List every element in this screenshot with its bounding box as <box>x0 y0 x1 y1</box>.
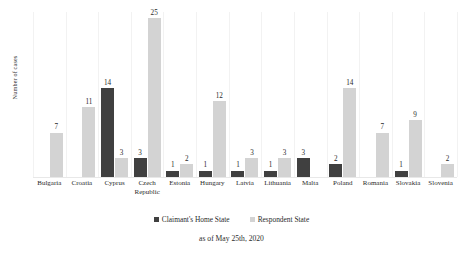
bar-group: 19 <box>392 12 425 177</box>
bar-slot: 3 <box>297 12 310 177</box>
bar-slot <box>36 12 49 177</box>
legend-label: Claimant's Home State <box>162 215 230 224</box>
bar-value-label: 3 <box>138 150 142 157</box>
bar-value-label: 1 <box>204 162 208 169</box>
bar-group: 11 <box>66 12 99 177</box>
bar-slot <box>68 12 81 177</box>
x-tick-label: Latvia <box>229 179 262 197</box>
x-tick-label: Cyprus <box>98 179 131 197</box>
x-tick-label: Malta <box>294 179 327 197</box>
x-tick-label: Romania <box>359 179 392 197</box>
bar-respondent: 12 <box>213 101 226 177</box>
bar-claimant: 2 <box>329 164 342 177</box>
bar-respondent: 3 <box>115 158 128 177</box>
bar-slot: 1 <box>231 12 244 177</box>
bar-value-label: 11 <box>85 99 92 106</box>
bar-slot <box>427 12 440 177</box>
x-tick-label: Slovenia <box>424 179 457 197</box>
bar-value-label: 25 <box>151 10 158 17</box>
bar-respondent: 25 <box>148 18 161 177</box>
bar-slot: 3 <box>245 12 258 177</box>
gridline <box>457 12 458 177</box>
plot-area: 71114332512112131332147192 <box>33 12 457 177</box>
bar-value-label: 1 <box>236 162 240 169</box>
legend-label: Respondent State <box>258 215 310 224</box>
bar-value-label: 9 <box>413 112 417 119</box>
bar-slot: 3 <box>278 12 291 177</box>
x-tick-label: Estonia <box>163 179 196 197</box>
bar-slot: 1 <box>199 12 212 177</box>
legend-item[interactable]: Respondent State <box>250 215 310 224</box>
x-axis-line <box>33 177 457 178</box>
bar-slot: 7 <box>50 12 63 177</box>
bar-value-label: 1 <box>399 162 403 169</box>
bar-value-label: 1 <box>171 162 175 169</box>
bar-claimant: 3 <box>134 158 147 177</box>
bar-slot: 9 <box>409 12 422 177</box>
bar-slot: 14 <box>101 12 114 177</box>
x-tick-label: Slovakia <box>392 179 425 197</box>
bar-respondent: 9 <box>409 120 422 177</box>
bar-value-label: 2 <box>334 156 338 163</box>
bar-claimant: 14 <box>101 88 114 177</box>
legend-item[interactable]: Claimant's Home State <box>154 215 230 224</box>
bar-value-label: 2 <box>185 156 189 163</box>
bar-slot: 14 <box>343 12 356 177</box>
bar-slot: 2 <box>180 12 193 177</box>
bar-slot <box>362 12 375 177</box>
bar-value-label: 7 <box>55 124 59 131</box>
bar-group: 13 <box>229 12 262 177</box>
legend-swatch-claimant <box>154 217 159 222</box>
x-tick-label: Hungary <box>196 179 229 197</box>
bar-claimant: 3 <box>297 158 310 177</box>
bar-group: 112 <box>196 12 229 177</box>
bar-group: 3 <box>294 12 327 177</box>
bar-value-label: 3 <box>120 150 124 157</box>
bar-slot: 1 <box>166 12 179 177</box>
bar-respondent: 11 <box>82 107 95 177</box>
bar-chart-figure: Number of cases 711143325121121313321471… <box>0 0 463 260</box>
x-tick-label: Croatia <box>66 179 99 197</box>
bar-group: 325 <box>131 12 164 177</box>
bar-value-label: 3 <box>301 150 305 157</box>
bars-layer: 71114332512112131332147192 <box>33 12 457 177</box>
bar-slot: 25 <box>148 12 161 177</box>
bar-slot: 1 <box>264 12 277 177</box>
bar-respondent: 3 <box>245 158 258 177</box>
bar-respondent: 2 <box>180 164 193 177</box>
bar-group: 214 <box>326 12 359 177</box>
bar-respondent: 3 <box>278 158 291 177</box>
bar-value-label: 2 <box>446 156 450 163</box>
bar-respondent: 2 <box>441 164 454 177</box>
bar-value-label: 12 <box>216 93 223 100</box>
x-tick-label: Lithuania <box>261 179 294 197</box>
bar-slot: 1 <box>395 12 408 177</box>
bar-slot: 2 <box>441 12 454 177</box>
bar-group: 13 <box>261 12 294 177</box>
bar-value-label: 3 <box>283 150 287 157</box>
y-axis-title: Number of cases <box>11 38 18 118</box>
footer-note: as of May 25th, 2020 <box>0 234 463 243</box>
bar-respondent: 7 <box>50 133 63 177</box>
bar-slot: 7 <box>376 12 389 177</box>
bar-slot: 2 <box>329 12 342 177</box>
bar-slot: 12 <box>213 12 226 177</box>
legend-swatch-respondent <box>250 217 255 222</box>
bar-slot: 3 <box>134 12 147 177</box>
bar-group: 7 <box>359 12 392 177</box>
bar-slot: 11 <box>82 12 95 177</box>
bar-group: 7 <box>33 12 66 177</box>
bar-value-label: 14 <box>346 80 353 87</box>
bar-respondent: 7 <box>376 133 389 177</box>
bar-value-label: 14 <box>104 80 111 87</box>
bar-slot <box>311 12 324 177</box>
x-tick-label: CzechRepublic <box>131 179 164 197</box>
bar-group: 2 <box>424 12 457 177</box>
x-axis-tick-labels: BulgariaCroatiaCyprusCzechRepublicEstoni… <box>33 179 457 197</box>
chart-legend: Claimant's Home StateRespondent State <box>0 215 463 224</box>
bar-value-label: 7 <box>381 124 385 131</box>
x-tick-label: Poland <box>326 179 359 197</box>
bar-group: 143 <box>98 12 131 177</box>
bar-value-label: 3 <box>250 150 254 157</box>
bar-group: 12 <box>163 12 196 177</box>
